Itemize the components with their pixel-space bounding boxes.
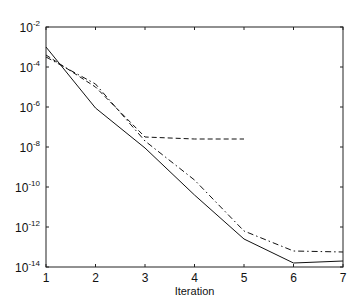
data-series <box>46 47 343 263</box>
y-tick-label: 10-14 <box>15 259 40 275</box>
y-tick-label: 10-4 <box>20 59 41 75</box>
series-line-dash-dot <box>46 57 343 252</box>
x-tick-label: 4 <box>191 271 198 285</box>
y-axis-ticks: 10-210-410-610-810-1010-1210-14 <box>15 19 343 275</box>
convergence-chart: 1234567 10-210-410-610-810-1010-1210-14 … <box>0 0 364 305</box>
y-tick-label: 10-10 <box>15 179 40 195</box>
y-tick-label: 10-2 <box>20 19 41 35</box>
x-tick-label: 2 <box>92 271 99 285</box>
x-tick-label: 3 <box>142 271 149 285</box>
x-tick-label: 5 <box>241 271 248 285</box>
x-axis-label: Iteration <box>175 285 215 297</box>
x-tick-label: 1 <box>43 271 50 285</box>
series-line-solid <box>46 47 343 263</box>
x-axis-ticks: 1234567 <box>43 27 347 285</box>
y-tick-label: 10-6 <box>20 99 41 115</box>
x-tick-label: 7 <box>340 271 347 285</box>
y-tick-label: 10-12 <box>15 219 40 235</box>
series-line-dashed <box>46 55 244 139</box>
x-tick-label: 6 <box>290 271 297 285</box>
plot-frame <box>46 27 343 267</box>
y-tick-label: 10-8 <box>20 139 41 155</box>
